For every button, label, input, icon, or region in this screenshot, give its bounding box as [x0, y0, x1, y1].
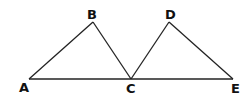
segment-bc	[93, 22, 131, 79]
segment-de	[169, 22, 233, 79]
segment-ab	[29, 22, 93, 79]
label-a: A	[19, 80, 29, 95]
label-d: D	[165, 7, 176, 22]
label-c: C	[126, 81, 136, 96]
label-b: B	[87, 7, 97, 22]
label-e: E	[231, 81, 240, 96]
segment-cd	[131, 22, 169, 79]
triangle-diagram: A B C D E	[0, 0, 249, 102]
